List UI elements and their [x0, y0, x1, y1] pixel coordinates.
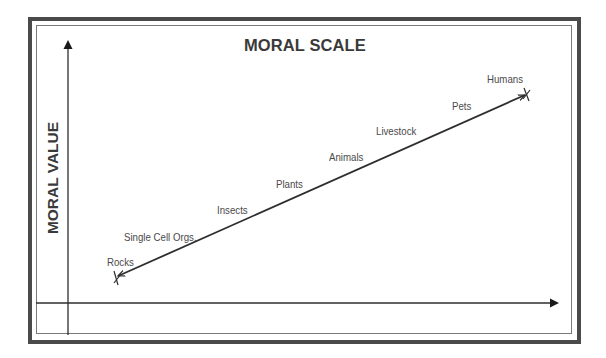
label-plants: Plants: [276, 178, 303, 190]
label-insects: Insects: [217, 204, 248, 216]
x-axis-arrow-icon: [550, 299, 559, 308]
y-axis-arrow-icon: [64, 40, 73, 49]
scale-line: [114, 88, 530, 285]
y-axis: [64, 40, 73, 335]
rocks-x-marker-icon: [114, 271, 121, 285]
label-pets: Pets: [452, 100, 471, 112]
label-livestock: Livestock: [376, 125, 416, 137]
label-animals: Animals: [329, 151, 363, 163]
x-axis: [36, 299, 559, 308]
label-humans: Humans: [487, 73, 523, 85]
label-single-cell-orgs: Single Cell Orgs.: [124, 231, 197, 243]
scale-arrow-line: [118, 95, 525, 276]
label-rocks: Rocks: [107, 256, 134, 268]
